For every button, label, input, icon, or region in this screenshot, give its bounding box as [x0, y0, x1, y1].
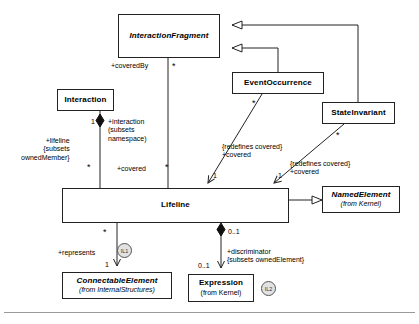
- class-name: StateInvariant: [331, 109, 385, 118]
- class-name: EventOccurrence: [244, 79, 312, 88]
- multiplicity-zeroone-bottom: 0..1: [198, 262, 210, 269]
- composition-lifeline-expression: [217, 223, 225, 268]
- multiplicity-star-covered-right: *: [165, 163, 169, 172]
- class-box-connectableelement[interactable]: ConnectableElement (from InternalStructu…: [62, 272, 172, 299]
- multiplicity-one-connectableelement: 1: [105, 261, 109, 268]
- multiplicity-star-stateinvariant: *: [336, 131, 340, 140]
- multiplicity-zeroone-top: 0..1: [228, 228, 240, 235]
- class-box-interactionfragment[interactable]: InteractionFragment: [118, 14, 220, 58]
- label-discriminator: +discriminator {subsets ownedElement}: [227, 248, 304, 265]
- label-interaction-role: +interaction (subsets namespace): [108, 118, 147, 143]
- class-box-stateinvariant[interactable]: StateInvariant: [322, 102, 395, 124]
- class-box-interaction[interactable]: Interaction: [57, 89, 114, 111]
- footer-divider: [4, 312, 415, 313]
- class-box-lifeline[interactable]: Lifeline: [62, 188, 289, 223]
- label-redefines-stateinvariant: {redefines covered} +covered: [290, 160, 350, 177]
- class-name: Interaction: [65, 96, 107, 105]
- label-covered-left: +covered: [117, 165, 146, 173]
- label-lifeline-role: +lifeline {subsets ownedMember}: [21, 137, 70, 162]
- badge-il1: IL1: [117, 243, 132, 258]
- uml-diagram-canvas: InteractionFragment (generalization, low…: [0, 0, 419, 324]
- class-name: ConnectableElement: [77, 277, 158, 286]
- badge-label: IL2: [265, 286, 272, 292]
- multiplicity-one-eventoccurrence: 1: [213, 172, 217, 179]
- generalization-eventoccurrence-interactionfragment: [232, 48, 278, 72]
- composition-interaction-lifeline: [96, 111, 104, 188]
- class-box-eventoccurrence[interactable]: EventOccurrence: [232, 72, 324, 94]
- multiplicity-one-stateinvariant: 1: [278, 172, 282, 179]
- class-name: NamedElement: [332, 191, 391, 200]
- label-coveredby: +coveredBy: [111, 62, 148, 70]
- class-name: InteractionFragment: [129, 32, 208, 41]
- multiplicity-star-covered-left: *: [87, 163, 91, 172]
- class-package: (from Kernel): [201, 289, 242, 297]
- class-name: Lifeline: [161, 201, 190, 210]
- multiplicity-interaction: 1: [91, 118, 95, 125]
- class-package: (from Kernel): [341, 200, 382, 208]
- badge-label: IL1: [121, 248, 128, 254]
- multiplicity-star-top: *: [172, 62, 176, 71]
- class-box-namedelement[interactable]: NamedElement (from Kernel): [322, 186, 400, 213]
- class-name: Expression: [199, 279, 243, 288]
- class-box-expression[interactable]: Expression (from Kernel): [188, 274, 254, 302]
- badge-il2: IL2: [261, 281, 276, 296]
- multiplicity-star-represents: *: [103, 228, 107, 237]
- label-represents: +represents: [58, 249, 95, 257]
- label-redefines-eventoccurrence: {redefines covered} +covered: [222, 143, 282, 160]
- multiplicity-star-eventoccurrence: *: [252, 99, 256, 108]
- class-package: (from InternalStructures): [79, 286, 155, 294]
